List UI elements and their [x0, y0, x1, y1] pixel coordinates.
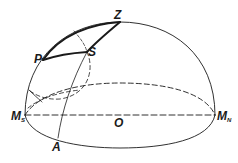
celestial-sphere-diagram [0, 0, 238, 163]
angle-arc [74, 31, 87, 52]
label-north-point-main: M [217, 109, 227, 123]
label-center: O [114, 117, 123, 129]
label-south-point-main: M [11, 109, 21, 123]
label-azimuth-point: A [52, 141, 61, 153]
label-pole: P [34, 53, 42, 65]
label-north-point: MN [217, 110, 231, 122]
label-north-point-sub: N [227, 117, 231, 123]
label-south-point: MS [11, 110, 25, 122]
label-south-point-sub: S [21, 117, 25, 123]
equator-dashed-arc [28, 90, 80, 108]
label-zenith: Z [114, 9, 121, 21]
hemisphere-outline [25, 22, 215, 115]
label-star: S [88, 46, 96, 58]
arc-PS [43, 52, 87, 60]
